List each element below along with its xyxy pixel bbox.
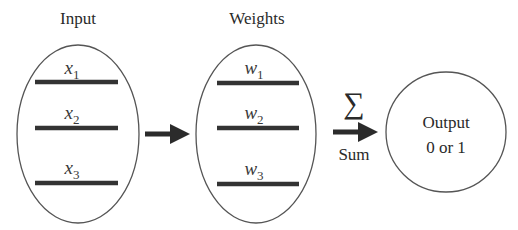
output-label: Output [422,113,470,132]
weights-group: Weights w1 w2 w3 [196,9,316,223]
input-item-3: x3 [35,157,118,183]
weights-sub-1: 1 [257,67,264,82]
svg-text:x2: x2 [64,102,80,127]
weights-item-3: w3 [217,158,299,184]
weights-var-1: w [244,57,257,78]
weights-var-3: w [244,158,257,179]
weights-item-1: w1 [217,57,299,83]
input-sub-2: 2 [73,112,80,127]
perceptron-diagram: Input x1 x2 x3 Weights w1 [0,0,518,230]
svg-text:x1: x1 [64,57,80,82]
output-node: Output 0 or 1 [386,72,506,192]
weights-label: Weights [229,9,284,28]
weights-var-2: w [244,102,257,123]
input-item-1: x1 [35,57,118,82]
sum-label: Sum [338,145,369,164]
input-group: Input x1 x2 x3 [17,9,139,223]
svg-text:x3: x3 [64,157,80,182]
input-item-2: x2 [35,102,118,128]
sum-arrow-group: ∑ Sum [333,86,370,164]
svg-text:w3: w3 [244,158,263,183]
svg-text:w1: w1 [244,57,263,82]
output-circle [386,72,506,192]
input-label: Input [60,9,96,28]
sigma-icon: ∑ [343,86,364,120]
weights-sub-3: 3 [257,168,264,183]
weights-sub-2: 2 [257,112,264,127]
input-sub-3: 3 [73,167,80,182]
output-value-label: 0 or 1 [426,138,466,157]
svg-text:w2: w2 [244,102,263,127]
weights-item-2: w2 [217,102,299,128]
